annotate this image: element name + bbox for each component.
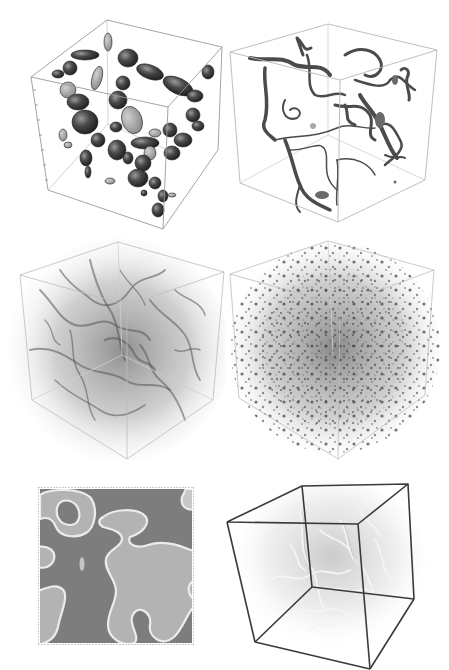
cube-render-filaments — [225, 0, 449, 230]
cube-render-strings — [210, 470, 449, 670]
panel-b-isosurface-filaments — [225, 0, 449, 230]
cube-render-blobs — [0, 0, 225, 230]
blob-cluster — [52, 33, 214, 217]
cube-front-edges — [230, 24, 437, 222]
panel-f-volume-render-strings — [210, 470, 449, 670]
slice-image — [38, 487, 194, 645]
panel-d-volume-render-speckle — [225, 230, 449, 460]
panel-c-volume-render-web — [0, 230, 225, 460]
cube-render-speckle — [225, 230, 449, 460]
cube-render-web — [0, 230, 225, 460]
panel-a-isosurface-blobs — [0, 0, 225, 230]
slice-bright-spot — [80, 557, 85, 571]
panel-e-2d-slice — [38, 487, 194, 645]
